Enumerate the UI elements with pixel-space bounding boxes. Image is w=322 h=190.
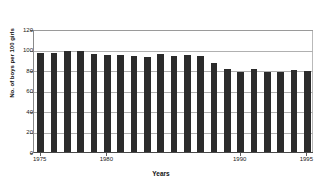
bar <box>237 72 244 152</box>
bar-series <box>34 30 313 152</box>
bar <box>77 51 84 152</box>
x-tick-mark <box>306 153 307 156</box>
bar <box>117 55 124 152</box>
x-tick-label: 1980 <box>91 156 121 162</box>
bar <box>211 63 218 152</box>
bar <box>277 72 284 152</box>
bar <box>304 71 311 152</box>
y-tick-mark <box>30 153 33 154</box>
bar <box>197 56 204 152</box>
bar <box>224 69 231 152</box>
bar <box>264 72 271 152</box>
y-tick-mark <box>30 51 33 52</box>
bar <box>91 54 98 152</box>
x-tick-label: 1990 <box>225 156 255 162</box>
plot-area <box>33 30 313 153</box>
x-tick-mark <box>106 153 107 156</box>
x-tick-label: 1995 <box>291 156 321 162</box>
y-tick-mark <box>30 30 33 31</box>
bar <box>291 70 298 152</box>
y-tick-mark <box>30 112 33 113</box>
bar <box>144 57 151 152</box>
bar-chart: 020406080100120 No. of boys per 100 girl… <box>0 0 322 190</box>
y-tick-mark <box>30 133 33 134</box>
y-tick-mark <box>30 92 33 93</box>
bar <box>104 55 111 152</box>
bar <box>37 53 44 152</box>
bar <box>157 54 164 152</box>
bar <box>251 69 258 152</box>
x-tick-label: 1975 <box>25 156 55 162</box>
x-tick-mark <box>40 153 41 156</box>
x-axis-title: Years <box>0 170 322 177</box>
bar <box>64 51 71 152</box>
bar <box>51 53 58 152</box>
bar <box>171 56 178 152</box>
y-tick-mark <box>30 71 33 72</box>
bar <box>184 55 191 152</box>
x-tick-mark <box>240 153 241 156</box>
y-axis-title: No. of boys per 100 girls <box>9 3 15 123</box>
bar <box>131 56 138 152</box>
